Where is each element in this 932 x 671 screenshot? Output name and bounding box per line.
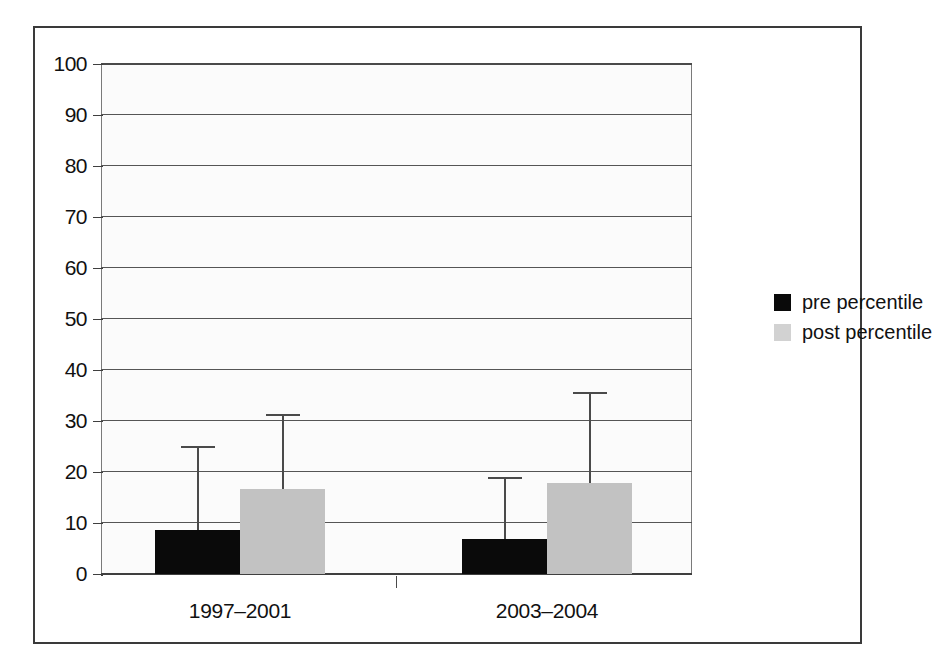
y-tick-20 — [93, 472, 103, 473]
y-tick-label-100: 100 — [35, 53, 87, 74]
y-tick-10 — [93, 523, 103, 524]
y-tick-0 — [93, 574, 103, 575]
error-bar-stem-pre-group-2 — [504, 477, 506, 539]
bar-post-group-2 — [547, 483, 632, 574]
gridline-70 — [101, 216, 692, 217]
error-bar-stem-post-group-1 — [282, 414, 284, 489]
y-tick-label-70: 70 — [35, 206, 87, 227]
y-tick-70 — [93, 217, 103, 218]
chart-legend: pre percentile post percentile — [774, 287, 932, 347]
figure-frame: 0102030405060708090100 1997–20012003–200… — [33, 26, 862, 644]
gridline-60 — [101, 267, 692, 268]
gridline-30 — [101, 420, 692, 421]
y-tick-label-90: 90 — [35, 104, 87, 125]
y-tick-label-30: 30 — [35, 410, 87, 431]
bar-chart: 0102030405060708090100 1997–20012003–200… — [35, 28, 860, 642]
bar-post-group-1 — [240, 489, 325, 574]
error-bar-cap-pre-group-2 — [488, 477, 522, 479]
gridline-40 — [101, 369, 692, 370]
error-bar-cap-post-group-1 — [266, 414, 300, 416]
y-tick-80 — [93, 166, 103, 167]
gridline-100 — [101, 63, 692, 65]
y-tick-label-40: 40 — [35, 359, 87, 380]
legend-label-post: post percentile — [802, 322, 932, 342]
y-tick-40 — [93, 370, 103, 371]
legend-label-pre: pre percentile — [802, 292, 923, 312]
error-bar-stem-pre-group-1 — [197, 446, 199, 530]
gridline-50 — [101, 318, 692, 319]
category-label-2: 2003–2004 — [457, 600, 637, 621]
legend-item-post: post percentile — [774, 317, 932, 347]
y-tick-label-60: 60 — [35, 257, 87, 278]
bar-pre-group-2 — [462, 539, 547, 574]
y-tick-label-10: 10 — [35, 512, 87, 533]
y-tick-30 — [93, 421, 103, 422]
legend-swatch-post-icon — [774, 324, 791, 341]
gridline-90 — [101, 114, 692, 115]
legend-item-pre: pre percentile — [774, 287, 932, 317]
y-tick-90 — [93, 115, 103, 116]
error-bar-cap-post-group-2 — [573, 392, 607, 394]
y-tick-label-80: 80 — [35, 155, 87, 176]
plot-right-edge — [691, 64, 692, 574]
error-bar-stem-post-group-2 — [589, 392, 591, 483]
y-tick-100 — [93, 64, 103, 65]
y-tick-60 — [93, 268, 103, 269]
bar-pre-group-1 — [155, 530, 240, 574]
category-divider-tick-1 — [396, 576, 397, 588]
y-tick-label-20: 20 — [35, 461, 87, 482]
legend-swatch-pre-icon — [774, 294, 791, 311]
gridline-20 — [101, 471, 692, 472]
error-bar-cap-pre-group-1 — [181, 446, 215, 448]
category-label-1: 1997–2001 — [150, 600, 330, 621]
plot-area — [101, 64, 692, 574]
y-tick-label-50: 50 — [35, 308, 87, 329]
y-tick-50 — [93, 319, 103, 320]
y-tick-label-0: 0 — [35, 563, 87, 584]
gridline-80 — [101, 165, 692, 166]
